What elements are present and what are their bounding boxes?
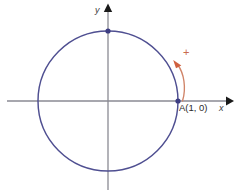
unit-circle-figure: y x A(1, 0) + [0, 0, 241, 193]
positive-direction-arc [178, 65, 185, 102]
positive-direction-arrowhead [173, 60, 181, 68]
point-label-a: A(1, 0) [179, 103, 208, 113]
y-axis-arrowhead [104, 4, 112, 13]
plus-sign-label: + [183, 47, 189, 58]
x-axis-label: x [219, 104, 224, 113]
point-marker-top [105, 28, 110, 33]
figure-canvas [0, 0, 241, 193]
y-axis-label: y [95, 6, 100, 15]
x-axis-arrowhead [226, 97, 234, 106]
